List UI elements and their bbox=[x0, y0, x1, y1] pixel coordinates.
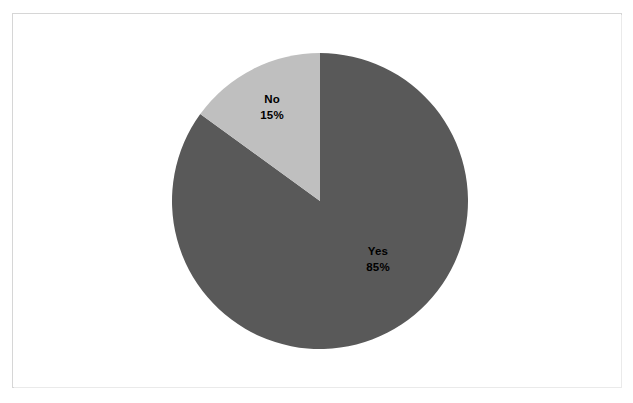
pie-slice-label-no: No 15% bbox=[236, 91, 308, 123]
pie-slice-label-yes: Yes 85% bbox=[342, 243, 414, 275]
pie-slice-label-yes-name: Yes bbox=[342, 243, 414, 259]
pie-slice-label-no-value: 15% bbox=[236, 107, 308, 123]
pie-slice-label-no-name: No bbox=[236, 91, 308, 107]
pie-chart: No 15% Yes 85% bbox=[0, 0, 633, 403]
pie-chart-svg bbox=[0, 0, 633, 403]
chart-canvas: No 15% Yes 85% bbox=[0, 0, 633, 403]
pie-slice-label-yes-value: 85% bbox=[342, 259, 414, 275]
pie-slice-group bbox=[172, 53, 468, 349]
